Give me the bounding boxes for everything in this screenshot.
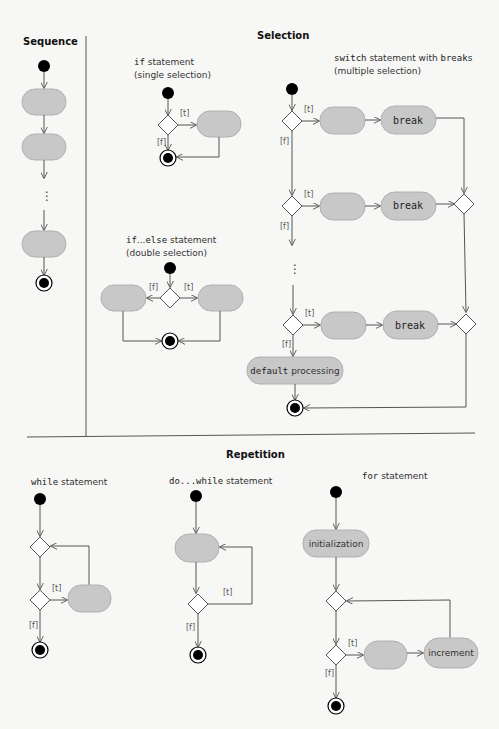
guard-true: [t] (304, 190, 313, 199)
break-label: break (393, 200, 423, 211)
guard-true: [t] (184, 283, 193, 292)
default-processing-label: default processing (250, 366, 339, 376)
do-while-caption: do...while statement (169, 476, 273, 486)
merge-node (456, 314, 476, 334)
decision-node (282, 196, 302, 216)
case-action (321, 312, 366, 339)
loop-body-action (175, 534, 219, 562)
for-caption: for statement (362, 471, 428, 481)
initial-node (162, 87, 174, 99)
break-label: break (395, 320, 425, 331)
action-state (22, 231, 66, 257)
switch-statement-diagram: switch statement with breaks (multiple s… (247, 53, 476, 416)
action-state-true (198, 285, 243, 311)
decision-node (188, 594, 208, 614)
merge-node (30, 537, 50, 557)
initial-node (38, 60, 50, 72)
guard-true: [t] (180, 109, 189, 118)
guard-false: [f] (29, 621, 38, 630)
section-divider-horizontal (27, 433, 475, 437)
switch-subcaption: (multiple selection) (334, 66, 421, 76)
case-action (320, 193, 365, 220)
guard-true: [t] (223, 588, 232, 597)
guard-false: [f] (157, 138, 166, 147)
loop-body-action (364, 641, 407, 669)
initialization-label: initialization (309, 539, 364, 549)
guard-true: [t] (304, 105, 313, 114)
guard-true: [t] (305, 309, 314, 318)
merge-node (326, 591, 346, 611)
guard-false: [f] (325, 669, 334, 678)
action-state-false (101, 285, 146, 311)
initial-node (330, 486, 342, 498)
guard-false: [f] (186, 623, 195, 632)
sequence-diagram: ⋮ (22, 60, 66, 291)
guard-false: [f] (282, 340, 291, 349)
initial-node (164, 262, 176, 274)
decision-node (282, 111, 302, 131)
action-state (22, 134, 66, 160)
decision-node (326, 645, 346, 665)
if-else-statement-diagram: if...else statement (double selection) [… (101, 235, 243, 349)
if-else-subcaption: (double selection) (126, 248, 207, 258)
initial-node (190, 490, 202, 502)
while-caption: while statement (31, 477, 108, 487)
decision-node (160, 288, 180, 308)
loop-body-action (68, 585, 111, 612)
guard-true: [t] (348, 639, 357, 648)
initial-node (34, 493, 46, 505)
if-else-caption: if...else statement (126, 235, 217, 245)
if-caption: if statement (134, 57, 195, 67)
while-statement-diagram: while statement [t] [f] (29, 477, 111, 658)
if-subcaption: (single selection) (134, 70, 211, 80)
case-action (320, 107, 365, 134)
action-state (197, 111, 241, 137)
decision-node (283, 315, 303, 335)
guard-false: [f] (280, 222, 289, 231)
guard-false: [f] (280, 137, 289, 146)
for-statement-diagram: for statement initialization [t] increme… (303, 471, 478, 714)
merge-node (454, 194, 474, 214)
control-statements-activity-diagram: Sequence Selection Repetition ⋮ if state… (0, 0, 499, 729)
guard-true: [t] (52, 584, 61, 593)
increment-label: increment (428, 648, 474, 658)
action-state (22, 89, 66, 115)
selection-header: Selection (257, 30, 309, 41)
if-statement-diagram: if statement (single selection) [t] [f] (134, 57, 241, 166)
decision-node (30, 590, 50, 610)
do-while-statement-diagram: do...while statement [t] [f] (169, 476, 273, 663)
ellipsis: ⋮ (289, 262, 301, 276)
ellipsis: ⋮ (41, 189, 53, 203)
guard-false: [f] (149, 283, 158, 292)
switch-caption: switch statement with breaks (334, 53, 473, 63)
break-label: break (393, 115, 423, 126)
decision-node (158, 115, 178, 135)
initial-node (286, 83, 298, 95)
sequence-header: Sequence (23, 36, 78, 47)
repetition-header: Repetition (226, 449, 285, 460)
